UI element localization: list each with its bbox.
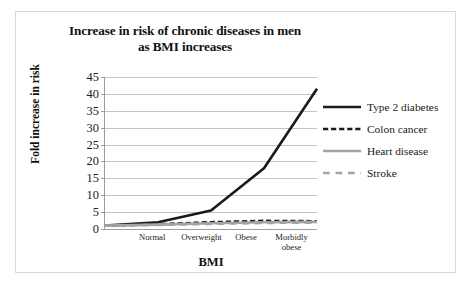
y-tick-label: 45	[87, 70, 99, 85]
legend-item: Heart disease	[322, 140, 447, 162]
plot-area: 051015202530354045 NormalOverweightObese…	[105, 77, 317, 229]
legend-swatch	[322, 123, 362, 135]
y-tick-label: 30	[87, 120, 99, 135]
legend-swatch	[322, 167, 362, 179]
y-tick-label: 5	[93, 205, 99, 220]
legend-item: Stroke	[322, 162, 447, 184]
series-lines	[105, 77, 317, 229]
legend-swatch	[322, 101, 362, 113]
series-line	[105, 89, 317, 226]
x-tick-label: Obese	[235, 233, 256, 243]
y-axis-title: Fold increase in risk	[29, 54, 41, 174]
chart-legend: Type 2 diabetesColon cancerHeart disease…	[322, 96, 447, 184]
x-tick-label: Normal	[139, 233, 165, 243]
x-tick-label: Morbidlyobese	[275, 233, 307, 252]
y-tick-label: 10	[87, 188, 99, 203]
y-tick-label: 40	[87, 86, 99, 101]
y-tick-label: 20	[87, 154, 99, 169]
legend-item: Type 2 diabetes	[322, 96, 447, 118]
chart-title-line1: Increase in risk of chronic diseases in …	[69, 23, 301, 38]
legend-item: Colon cancer	[322, 118, 447, 140]
legend-label: Stroke	[367, 167, 397, 179]
legend-label: Type 2 diabetes	[367, 101, 438, 113]
plot-wrap: 051015202530354045 NormalOverweightObese…	[105, 77, 317, 229]
y-tick-label: 25	[87, 137, 99, 152]
x-axis-line	[105, 229, 317, 230]
y-tick-label: 0	[93, 222, 99, 237]
chart-title-line2: as BMI increases	[40, 39, 330, 55]
legend-swatch	[322, 145, 362, 157]
legend-label: Colon cancer	[367, 123, 427, 135]
legend-label: Heart disease	[367, 145, 428, 157]
chart-title: Increase in risk of chronic diseases in …	[40, 23, 330, 55]
x-axis-title: BMI	[105, 255, 317, 270]
chart-screenshot: Increase in risk of chronic diseases in …	[0, 0, 473, 288]
y-tick-label: 15	[87, 171, 99, 186]
y-tick-label: 35	[87, 103, 99, 118]
x-tick-label: Overweight	[181, 233, 222, 243]
